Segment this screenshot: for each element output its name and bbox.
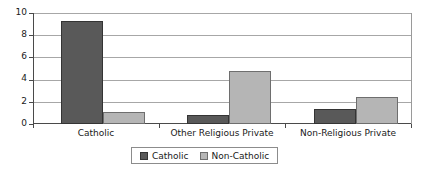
x-axis: Catholic Other Religious Private Non-Rel… — [33, 128, 412, 142]
bar-other-religious-private-non-catholic — [229, 71, 271, 124]
legend-entry-non-catholic: Non-Catholic — [200, 151, 270, 161]
legend-label-catholic: Catholic — [152, 151, 189, 161]
legend-entry-catholic: Catholic — [140, 151, 189, 161]
y-axis: 10 8 6 4 2 0 — [0, 0, 33, 172]
bar-non-religious-private-catholic — [314, 109, 356, 124]
bars-layer — [33, 13, 412, 124]
grouped-bar-chart: 10 8 6 4 2 0 — [0, 0, 431, 172]
bar-catholic-catholic — [61, 21, 103, 124]
y-tick-label-0: 0 — [21, 119, 27, 128]
y-tick-label-8: 8 — [21, 30, 27, 39]
x-tick-label-other-religious-private: Other Religious Private — [159, 128, 285, 139]
y-tick-label-4: 4 — [21, 74, 27, 83]
legend-swatch-icon-non-catholic — [200, 152, 208, 160]
y-tick-label-6: 6 — [21, 52, 27, 61]
x-tick-label-catholic: Catholic — [33, 128, 159, 139]
y-tick-label-10: 10 — [16, 8, 27, 17]
legend-swatch-icon-catholic — [140, 152, 148, 160]
chart-legend: Catholic Non-Catholic — [131, 147, 278, 164]
y-tick-label-2: 2 — [21, 97, 27, 106]
x-tick-label-non-religious-private: Non-Religious Private — [285, 128, 411, 139]
bar-non-religious-private-non-catholic — [356, 97, 398, 124]
bar-other-religious-private-catholic — [187, 115, 229, 124]
bar-catholic-non-catholic — [103, 112, 145, 124]
legend-label-non-catholic: Non-Catholic — [212, 151, 270, 161]
